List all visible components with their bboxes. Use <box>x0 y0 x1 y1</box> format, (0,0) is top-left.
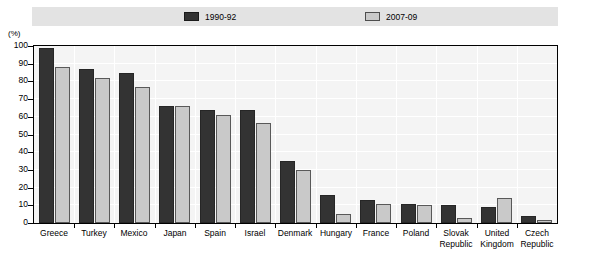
bar-1990-92-poland <box>401 204 416 223</box>
y-axis-tick-label: 90 <box>2 59 28 68</box>
bar-2007-09-mexico <box>135 87 150 223</box>
gridline-vertical <box>477 46 478 223</box>
gridline-vertical <box>356 46 357 223</box>
bar-1990-92-mexico <box>119 73 134 223</box>
chart-legend: 1990-92 2007-09 <box>32 7 558 26</box>
x-axis-tick-label: Spain <box>195 228 235 239</box>
gridline-vertical <box>155 46 156 223</box>
bar-1990-92-denmark <box>280 161 295 223</box>
y-axis-tick-label: 50 <box>2 130 28 139</box>
bar-2007-09-denmark <box>296 170 311 223</box>
gridline-horizontal <box>34 98 557 99</box>
bar-1990-92-israel <box>240 110 255 223</box>
bar-1990-92-turkey <box>79 69 94 223</box>
legend-entry-1990-92: 1990-92 <box>184 10 236 23</box>
bar-2007-09-czech-republic <box>537 220 552 223</box>
gridline-horizontal <box>34 45 557 46</box>
y-axis-tick-label: 100 <box>2 41 28 50</box>
y-axis-tick-label: 80 <box>2 76 28 85</box>
bar-2007-09-israel <box>256 123 271 223</box>
x-axis-tick-label: France <box>356 228 396 239</box>
bar-2007-09-united-kingdom <box>497 198 512 223</box>
x-axis-tick-label: Slovak Republic <box>436 228 476 249</box>
bar-2007-09-france <box>376 204 391 223</box>
y-axis-tick-label: 10 <box>2 200 28 209</box>
gridline-vertical <box>235 46 236 223</box>
bar-1990-92-japan <box>159 106 174 223</box>
x-axis-tick-label: Mexico <box>114 228 154 239</box>
gridline-horizontal <box>34 116 557 117</box>
bar-1990-92-united-kingdom <box>481 207 496 223</box>
legend-label-2007-09: 2007-09 <box>386 12 417 22</box>
legend-entry-2007-09: 2007-09 <box>365 10 417 23</box>
legend-label-1990-92: 1990-92 <box>205 12 236 22</box>
bar-2007-09-hungary <box>336 214 351 223</box>
bar-1990-92-hungary <box>320 195 335 223</box>
gridline-horizontal <box>34 63 557 64</box>
y-axis-tick-label: 20 <box>2 183 28 192</box>
x-axis-tick-label: Denmark <box>275 228 315 239</box>
bar-2007-09-greece <box>55 67 70 223</box>
bar-2007-09-japan <box>175 106 190 223</box>
x-axis-tick-label: Hungary <box>316 228 356 239</box>
x-axis-tick-label: Czech Republic <box>517 228 557 249</box>
y-axis-tick-label: 40 <box>2 147 28 156</box>
bar-1990-92-spain <box>200 110 215 223</box>
x-axis-tick-label: Greece <box>34 228 74 239</box>
x-axis-tick-label: Poland <box>396 228 436 239</box>
y-axis: 0102030405060708090100 <box>0 0 28 260</box>
bar-2007-09-spain <box>216 115 231 223</box>
x-axis-tick-label: Japan <box>155 228 195 239</box>
gridline-vertical <box>316 46 317 223</box>
gridline-vertical <box>517 46 518 223</box>
gridline-horizontal <box>34 80 557 81</box>
bar-1990-92-czech-republic <box>521 216 536 223</box>
y-axis-tick-label: 30 <box>2 165 28 174</box>
gridline-vertical <box>275 46 276 223</box>
bar-2007-09-turkey <box>95 78 110 223</box>
bar-2007-09-slovak-republic <box>457 218 472 223</box>
gridline-horizontal <box>34 134 557 135</box>
plot-area <box>33 45 558 224</box>
gridline-vertical <box>436 46 437 223</box>
gridline-horizontal <box>34 151 557 152</box>
bar-1990-92-greece <box>39 48 54 223</box>
legend-swatch-icon-1990-92 <box>184 12 199 21</box>
y-axis-tick-label: 0 <box>2 218 28 227</box>
x-axis-tick-label: Israel <box>235 228 275 239</box>
gridline-vertical <box>195 46 196 223</box>
y-axis-tick-label: 70 <box>2 94 28 103</box>
bar-2007-09-poland <box>417 205 432 223</box>
x-axis-tick-label: Turkey <box>74 228 114 239</box>
legend-swatch-icon-2007-09 <box>365 12 380 21</box>
gridline-vertical <box>114 46 115 223</box>
gridline-vertical <box>396 46 397 223</box>
gridline-vertical <box>74 46 75 223</box>
x-axis-tick-label: United Kingdom <box>477 228 517 249</box>
bar-1990-92-france <box>360 200 375 223</box>
bar-1990-92-slovak-republic <box>441 205 456 223</box>
y-axis-tick-label: 60 <box>2 112 28 121</box>
